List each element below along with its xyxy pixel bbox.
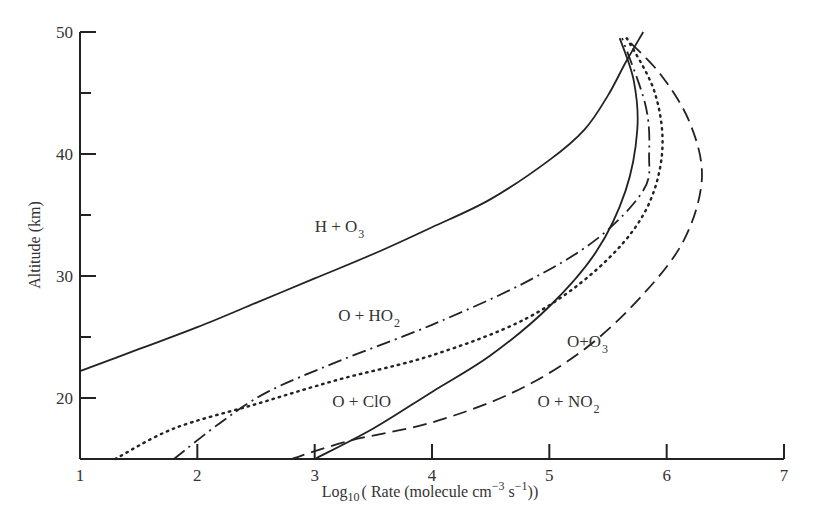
x-tick-label: 5 — [545, 466, 554, 485]
label-o-clo: O + ClO — [332, 392, 391, 411]
curves — [80, 32, 702, 459]
y-tick-label: 30 — [56, 267, 73, 286]
y-tick-label: 20 — [56, 389, 73, 408]
x-axis-title: Log10( Rate (molecule cm−3 s−1)) — [322, 479, 538, 504]
label-o-ho2: O + HO2 — [338, 306, 400, 330]
x-tick-label: 3 — [310, 466, 319, 485]
chart-canvas: 123456720304050 H + O3O+O3O + HO2O + ClO… — [0, 0, 814, 529]
y-axis-title: Altitude (km) — [26, 201, 44, 289]
x-tick-label: 2 — [193, 466, 202, 485]
y-tick-label: 50 — [56, 23, 73, 42]
label-h-o3: H + O3 — [315, 217, 365, 241]
x-tick-label: 1 — [76, 466, 85, 485]
x-tick-label: 6 — [662, 466, 671, 485]
curve-labels: H + O3O+O3O + HO2O + ClOO + NO2 — [315, 217, 608, 415]
label-o-no2: O + NO2 — [538, 392, 600, 416]
y-tick-label: 40 — [56, 145, 73, 164]
x-tick-label: 7 — [780, 466, 789, 485]
axes: 123456720304050 — [56, 23, 789, 485]
